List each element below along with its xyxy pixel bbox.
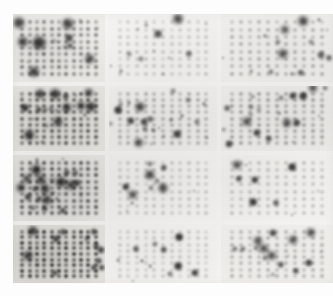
blot-spot [288, 163, 296, 171]
blot-spot [31, 165, 41, 175]
blot-spot [126, 210, 129, 213]
blot-spot [317, 190, 320, 193]
blot-spot [154, 30, 162, 38]
blot-spot [293, 268, 299, 274]
blot-panel [13, 225, 105, 283]
blot-spot [119, 69, 123, 73]
film-sheet [13, 14, 333, 283]
blot-spot [318, 52, 325, 59]
blot-spot [67, 43, 73, 49]
blot-spot [254, 246, 259, 251]
blot-spot [205, 23, 208, 26]
panel-background [13, 14, 105, 82]
blot-spot [174, 262, 182, 270]
blot-panel [13, 155, 105, 221]
blot-spot [326, 29, 329, 32]
blot-spot [226, 141, 233, 148]
blot-spot [151, 128, 155, 132]
blot-spot [136, 103, 145, 112]
blot-spot [86, 102, 96, 112]
blot-spot [173, 130, 181, 138]
blot-spot [60, 229, 66, 235]
blot-spot [18, 37, 28, 47]
blot-spot [186, 98, 191, 103]
blot-spot [132, 280, 135, 283]
blot-spot [263, 34, 267, 38]
blot-spot [25, 194, 32, 201]
blot-spot [171, 89, 176, 94]
blot-spot [298, 16, 308, 26]
blot-spot [127, 101, 131, 105]
blot-spot [52, 270, 58, 276]
blot-spot [72, 170, 78, 176]
blot-spot [53, 236, 60, 243]
blot-panel [109, 86, 217, 151]
blot-spot [162, 73, 165, 76]
blot-spot [55, 197, 59, 201]
blot-spot [180, 114, 184, 118]
autoradiograph-figure [0, 0, 333, 296]
blot-panel [221, 14, 333, 82]
blot-spot [36, 196, 42, 202]
blot-spot [290, 72, 294, 76]
blot-spot [79, 19, 82, 22]
blot-panel [109, 225, 217, 283]
blot-spot [287, 255, 290, 258]
blot-panel [13, 14, 105, 82]
blot-spot [299, 92, 307, 100]
blot-spot [277, 111, 281, 115]
blot-panel [13, 86, 105, 151]
blot-spot [173, 14, 183, 24]
blot-spot [144, 23, 148, 27]
panel-background [221, 14, 333, 82]
blot-spot [51, 191, 55, 195]
blot-spot [270, 230, 277, 237]
blot-spot [148, 264, 152, 268]
blot-panel [109, 155, 217, 221]
blot-spot [155, 179, 160, 184]
blot-spot [36, 90, 45, 99]
blot-spot [63, 19, 74, 30]
blot-spot [96, 258, 102, 264]
blot-spot [35, 158, 39, 162]
blot-spot [27, 61, 30, 64]
blot-spot [23, 175, 31, 183]
blot-spot [150, 143, 153, 146]
blot-spot [50, 89, 60, 99]
blot-spot [289, 236, 297, 244]
blot-spot [323, 86, 328, 90]
panel-background [221, 225, 333, 283]
panel-background [221, 86, 333, 151]
blot-spot [24, 130, 34, 140]
blot-spot [98, 247, 105, 254]
blot-panel [221, 225, 333, 283]
blot-spot [42, 245, 46, 249]
blot-spot [249, 198, 257, 206]
blot-spot [32, 186, 38, 192]
blot-spot [21, 97, 24, 100]
blot-spot [153, 242, 158, 247]
blot-spot [279, 96, 284, 101]
blot-spot [169, 118, 173, 122]
blot-spot [202, 102, 206, 106]
blot-spot [33, 37, 46, 50]
blot-spot [49, 107, 54, 112]
blot-spot [127, 52, 132, 57]
blot-spot [96, 27, 99, 30]
blot-spot [40, 140, 44, 144]
blot-spot [309, 40, 314, 45]
blot-spot [317, 18, 321, 22]
blot-spot [42, 53, 45, 56]
blot-spot [233, 161, 241, 169]
blot-spot [65, 34, 73, 42]
blot-spot [147, 116, 153, 122]
blot-spot [283, 119, 291, 127]
blot-spot [137, 28, 140, 31]
blot-spot [116, 258, 120, 262]
blot-spot [326, 55, 332, 61]
blot-spot [133, 246, 139, 252]
blot-spot [29, 67, 39, 77]
blot-panel [221, 155, 333, 221]
blot-spot [50, 178, 55, 183]
blot-spot [159, 184, 168, 193]
